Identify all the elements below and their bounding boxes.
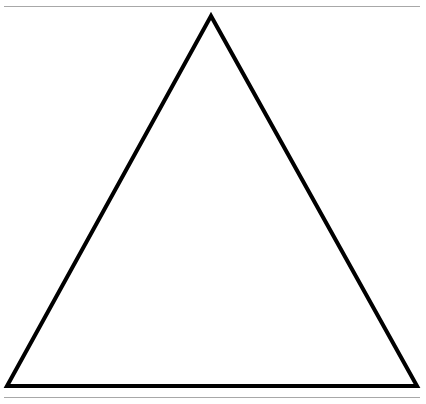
triangle-diagram — [0, 0, 426, 404]
bottom-divider — [4, 397, 420, 398]
triangle-shape — [7, 16, 417, 386]
